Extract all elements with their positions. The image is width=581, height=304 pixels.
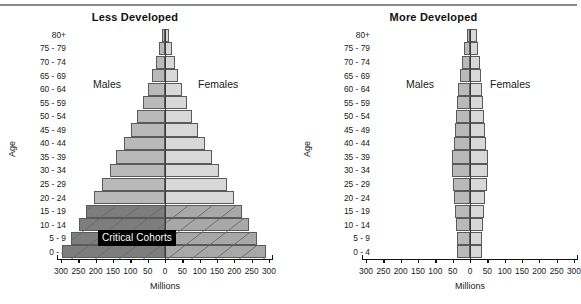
- x-axis-tick: [61, 259, 62, 263]
- bar-male: [102, 178, 165, 191]
- x-axis-tick: [78, 259, 79, 263]
- bar-male: [456, 218, 470, 231]
- x-axis-tick: [165, 259, 166, 263]
- x-axis-tick-label: 300: [54, 267, 68, 275]
- bar-female: [165, 96, 187, 109]
- x-axis-tick: [435, 259, 436, 263]
- bar-male: [148, 83, 165, 96]
- bar-male: [462, 56, 470, 69]
- bar-female: [470, 232, 482, 245]
- bar-male: [454, 137, 470, 150]
- plot-area-more-developed: [360, 29, 580, 259]
- x-axis-tick: [470, 259, 471, 263]
- bar-male: [452, 150, 470, 163]
- x-axis-tick: [401, 259, 402, 263]
- age-tick-label: 50 - 54: [290, 112, 370, 120]
- age-tick-label: 40 - 44: [290, 139, 370, 147]
- x-axis-end-cap: [272, 255, 273, 261]
- x-axis-tick-label: 250: [376, 267, 390, 275]
- x-axis-tick-label: 250: [245, 267, 259, 275]
- x-axis-tick-label: 0: [163, 267, 168, 275]
- age-tick-label: 60 - 64: [290, 85, 370, 93]
- bar-female: [470, 123, 485, 136]
- bar-female: [165, 69, 178, 82]
- x-axis-tick: [418, 259, 419, 263]
- bar-male: [86, 205, 165, 218]
- bar-female: [165, 245, 266, 258]
- age-tick-label: 55 - 59: [290, 99, 370, 107]
- bar-male: [460, 69, 470, 82]
- x-axis-tick-label: 300: [262, 267, 276, 275]
- bar-male: [453, 178, 470, 191]
- bar-male: [143, 96, 165, 109]
- x-axis-tick: [269, 259, 270, 263]
- series-label-males-right: Males: [406, 78, 434, 90]
- x-axis-tick-label: 100: [123, 267, 137, 275]
- age-tick-label: 15 - 19: [290, 207, 370, 215]
- bar-female: [165, 232, 257, 245]
- x-axis-tick: [234, 259, 235, 263]
- x-axis-end-cap: [57, 255, 58, 261]
- x-axis-tick: [130, 259, 131, 263]
- x-axis-tick-label: 200: [227, 267, 241, 275]
- x-axis-tick: [574, 259, 575, 263]
- age-tick-label: 65 - 69: [290, 72, 370, 80]
- age-tick-label: 80+: [290, 31, 370, 39]
- bar-female: [470, 110, 484, 123]
- x-axis-tick: [487, 259, 488, 263]
- age-tick-label: 0 - 4: [290, 248, 370, 256]
- x-axis-tick: [200, 259, 201, 263]
- x-axis-tick: [557, 259, 558, 263]
- bar-male: [137, 110, 165, 123]
- age-tick-label: 75 - 79: [290, 44, 370, 52]
- x-axis-tick-label: 200: [89, 267, 103, 275]
- bar-female: [470, 69, 481, 82]
- x-axis-tick-label: 50: [143, 267, 152, 275]
- bar-female: [165, 164, 219, 177]
- age-tick-label: 35 - 39: [290, 153, 370, 161]
- x-axis-tick-label: 150: [411, 267, 425, 275]
- x-axis-tick-label: 100: [498, 267, 512, 275]
- bar-female: [165, 110, 192, 123]
- bar-female: [165, 191, 234, 204]
- x-axis-tick-label: 200: [532, 267, 546, 275]
- bar-female: [470, 218, 483, 231]
- bar-female: [470, 42, 478, 55]
- zero-axis-line-right: [470, 29, 471, 259]
- x-axis-tick-label: 200: [394, 267, 408, 275]
- x-axis-tick: [453, 259, 454, 263]
- bar-male: [457, 96, 470, 109]
- bar-male: [455, 205, 470, 218]
- x-axis-tick-label: 150: [515, 267, 529, 275]
- x-axis-tick: [366, 259, 367, 263]
- bar-female: [470, 150, 488, 163]
- bar-female: [165, 205, 242, 218]
- bar-male: [156, 56, 165, 69]
- bar-female: [470, 178, 487, 191]
- bar-male: [458, 83, 470, 96]
- zero-axis-line-left: [165, 29, 166, 259]
- bar-male: [124, 137, 165, 150]
- x-axis-tick-label: 100: [193, 267, 207, 275]
- bar-male: [457, 245, 470, 258]
- bar-male: [110, 164, 165, 177]
- x-axis-tick-label: 50: [178, 267, 187, 275]
- x-axis-tick-label: 300: [359, 267, 373, 275]
- bar-male: [457, 232, 470, 245]
- x-axis-title-millions-left: Millions: [105, 281, 225, 291]
- x-axis-tick-label: 50: [483, 267, 492, 275]
- bar-female: [165, 123, 198, 136]
- bar-female: [470, 56, 480, 69]
- bar-female: [470, 205, 484, 218]
- x-axis-tick-label: 150: [106, 267, 120, 275]
- bar-female: [470, 83, 482, 96]
- age-tick-label: 25 - 29: [290, 180, 370, 188]
- y-axis-tick-labels-right: 80+75 - 7970 - 7465 - 6960 - 6455 - 5950…: [290, 0, 370, 304]
- bar-male: [455, 123, 470, 136]
- bar-male: [62, 245, 165, 258]
- x-axis-tick-label: 150: [210, 267, 224, 275]
- panel-less-developed: Less Developed Age 80+75 - 7970 - 7465 -…: [0, 0, 290, 304]
- bar-male: [116, 150, 165, 163]
- x-axis-tick: [539, 259, 540, 263]
